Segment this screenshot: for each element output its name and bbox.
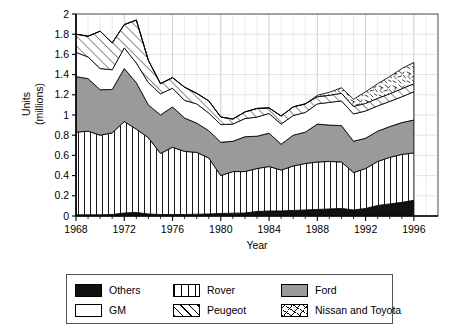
- x-tick-label: 1996: [402, 223, 426, 235]
- legend-label-ford: Ford: [315, 285, 337, 296]
- x-tick-label: 1984: [257, 223, 281, 235]
- y-tick-label: 1.6: [54, 48, 69, 60]
- x-tick-label: 1972: [113, 223, 137, 235]
- x-tick-label: 1980: [209, 223, 233, 235]
- x-axis-label: Year: [246, 239, 268, 251]
- chart-page: 00.20.40.60.811.21.41.61.82 196819721976…: [0, 0, 459, 332]
- x-axis-ticks: 19681972197619801984198819921996: [64, 216, 425, 235]
- y-tick-label: 1.2: [54, 88, 69, 100]
- stacked-area-chart: 00.20.40.60.811.21.41.61.82 196819721976…: [0, 0, 459, 268]
- legend-item-ford: Ford: [281, 284, 401, 297]
- legend-item-nissan-and-toyota: Nissan and Toyota: [281, 304, 401, 317]
- legend-label-peugeot: Peugeot: [207, 305, 246, 316]
- legend-item-gm: GM: [75, 304, 173, 317]
- y-tick-label: 0.2: [54, 189, 69, 201]
- y-axis-ticks: 00.20.40.60.811.21.41.61.82: [54, 8, 76, 222]
- y-tick-label: 1.4: [54, 68, 69, 80]
- y-tick-label: 0: [63, 210, 69, 222]
- x-tick-label: 1976: [161, 223, 185, 235]
- legend-label-others: Others: [109, 285, 141, 296]
- chart-legend: Others Rover Ford GM Peugeot Nissan and …: [66, 274, 393, 324]
- swatch-scribble-icon: [281, 304, 308, 317]
- y-tick-label: 1: [63, 109, 69, 121]
- swatch-solid-black-icon: [75, 284, 102, 297]
- legend-label-rover: Rover: [207, 285, 235, 296]
- swatch-diagonal-hatch-icon: [173, 304, 200, 317]
- swatch-solid-white-icon: [75, 304, 102, 317]
- legend-item-others: Others: [75, 284, 173, 297]
- y-tick-label: 0.4: [54, 169, 69, 181]
- x-tick-label: 1968: [64, 223, 88, 235]
- x-tick-label: 1988: [306, 223, 330, 235]
- legend-label-nissan-and-toyota: Nissan and Toyota: [315, 305, 401, 316]
- legend-item-peugeot: Peugeot: [173, 304, 281, 317]
- y-axis-label-line2: (millions): [33, 83, 45, 125]
- y-tick-label: 0.8: [54, 129, 69, 141]
- legend-item-rover: Rover: [173, 284, 281, 297]
- chart-canvas: 00.20.40.60.811.21.41.61.82 196819721976…: [0, 0, 459, 268]
- legend-label-gm: GM: [109, 305, 126, 316]
- y-axis-label-line1: Units: [20, 92, 32, 116]
- y-tick-label: 0.6: [54, 149, 69, 161]
- y-tick-label: 1.8: [54, 28, 69, 40]
- y-tick-label: 2: [63, 8, 69, 20]
- swatch-vertical-lines-icon: [173, 284, 200, 297]
- swatch-solid-gray-icon: [281, 284, 308, 297]
- x-tick-label: 1992: [354, 223, 378, 235]
